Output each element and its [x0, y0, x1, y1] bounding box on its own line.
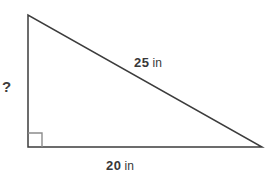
hypotenuse-label: 25in	[134, 54, 162, 70]
right-triangle-figure: 25in 20in ?	[0, 0, 275, 181]
hypotenuse-value: 25	[134, 55, 149, 70]
triangle-drawing	[0, 0, 275, 181]
base-label: 20in	[106, 157, 134, 173]
hypotenuse-unit: in	[152, 56, 161, 70]
triangle-outline	[28, 15, 262, 147]
right-angle-marker-icon	[28, 133, 42, 147]
base-value: 20	[106, 158, 121, 173]
height-unknown-label: ?	[2, 79, 11, 94]
base-unit: in	[124, 159, 133, 173]
